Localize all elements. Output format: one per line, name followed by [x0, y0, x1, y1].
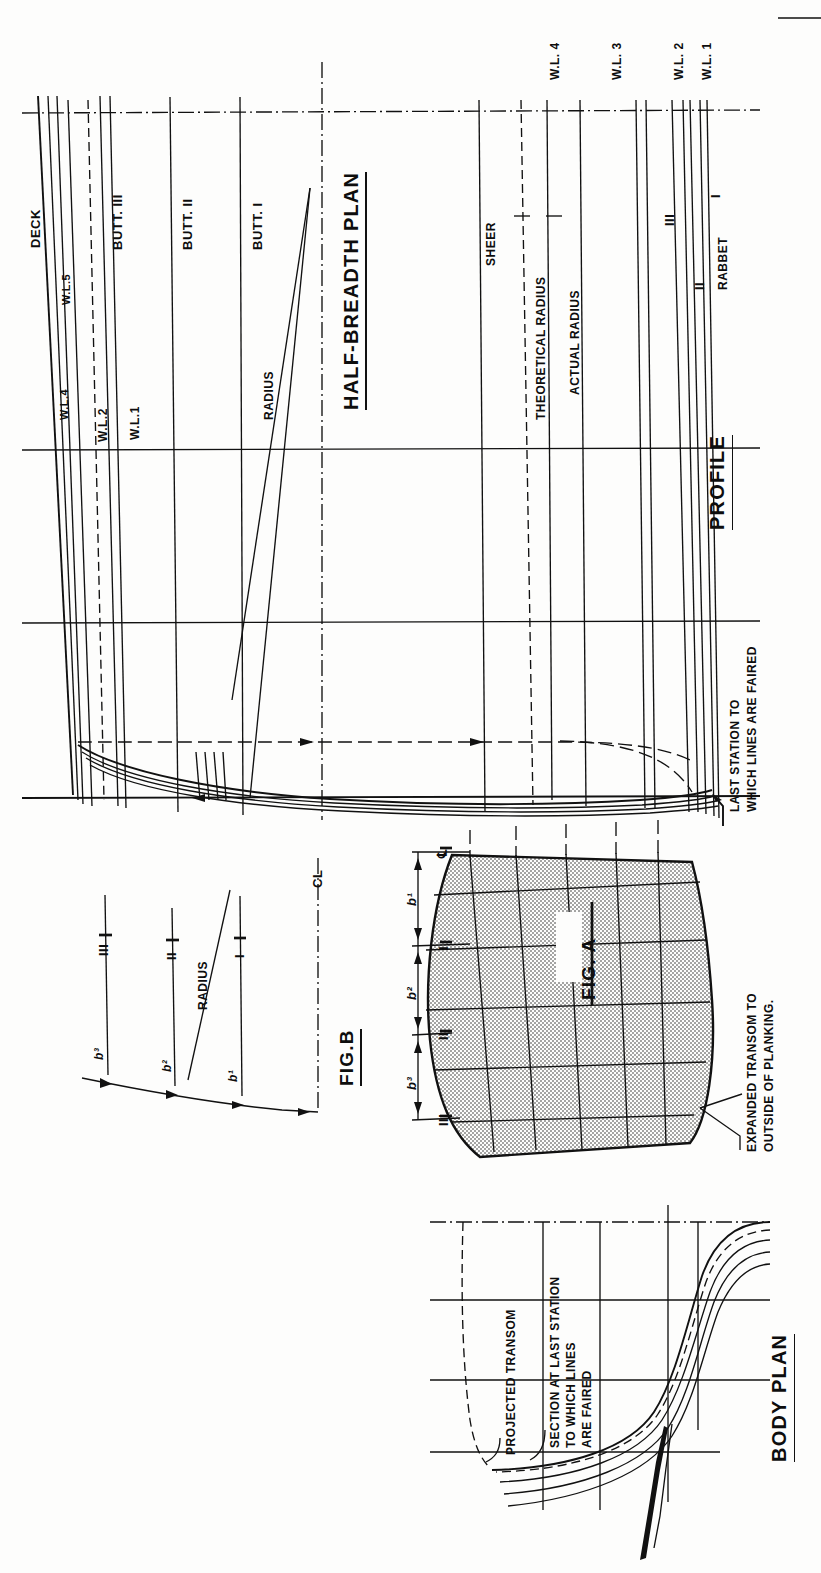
- drawing-sheet: DECK W.L.5 BUTT. III BUTT. II BUTT. I W.…: [0, 0, 821, 1573]
- body-plan-leaders: [0, 0, 821, 1573]
